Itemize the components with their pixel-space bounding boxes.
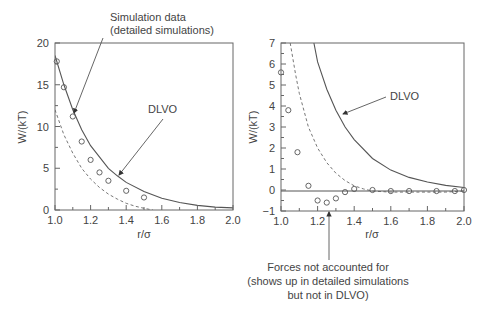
figure-canvas: 05101520 1.01.21.41.61.82.0 r/σ W/(kT) S… xyxy=(0,0,491,309)
simulation-data-point xyxy=(324,200,329,205)
simulation-data-point xyxy=(306,183,311,188)
x-tick-label: 1.2 xyxy=(310,215,325,227)
x-tick-label: 2.0 xyxy=(456,215,471,227)
y-tick-label: 3 xyxy=(269,121,275,133)
simulation-data-point xyxy=(286,108,291,113)
dashed-curve xyxy=(290,43,464,192)
left-plot-frame xyxy=(55,43,233,210)
x-tick-label: 1.4 xyxy=(347,215,362,227)
left-dlvo-arrow-icon xyxy=(119,119,163,175)
x-tick-label: 1.6 xyxy=(383,215,398,227)
left-chart: 05101520 1.01.21.41.61.82.0 r/σ W/(kT) S… xyxy=(16,11,241,240)
simulation-data-point xyxy=(124,188,129,193)
y-tick-label: 20 xyxy=(37,37,49,49)
simulation-data-sublabel: (detailed simulations) xyxy=(110,24,214,36)
y-tick-label: 5 xyxy=(43,162,49,174)
x-tick-label: 1.0 xyxy=(47,214,62,226)
simulation-data-label: Simulation data xyxy=(110,11,187,23)
y-tick-label: 4 xyxy=(269,100,275,112)
forces-sublabel-2: but not in DLVO) xyxy=(287,289,368,301)
left-x-axis-label: r/σ xyxy=(137,228,151,240)
simulation-data-point xyxy=(342,190,347,195)
right-dlvo-label: DLVO xyxy=(390,90,420,102)
right-dlvo-arrow-icon xyxy=(343,97,386,114)
left-y-axis-label: W/(kT) xyxy=(16,111,28,144)
right-y-axis-label: W/(kT) xyxy=(247,111,259,144)
left-dlvo-label: DLVO xyxy=(148,103,178,115)
y-tick-label: 15 xyxy=(37,79,49,91)
y-tick-label: 7 xyxy=(269,37,275,49)
right-y-tick-labels: −101234567 xyxy=(262,37,275,217)
simulation-data-point xyxy=(295,150,300,155)
left-x-tick-labels: 1.01.21.41.61.82.0 xyxy=(47,214,240,226)
forces-sublabel-1: (shows up in detailed simulations xyxy=(247,275,409,287)
right-x-axis-label: r/σ xyxy=(365,228,379,240)
dlvo-curve xyxy=(55,56,233,208)
y-tick-label: 6 xyxy=(269,58,275,70)
right-plot-area xyxy=(278,43,466,205)
x-tick-label: 1.4 xyxy=(119,214,134,226)
right-x-tick-labels: 1.01.21.41.61.82.0 xyxy=(273,215,471,227)
right-chart: −101234567 1.01.21.41.61.82.0 r/σ W/(kT)… xyxy=(247,37,472,301)
left-y-tick-labels: 05101520 xyxy=(37,37,49,216)
x-tick-label: 1.2 xyxy=(83,214,98,226)
simulation-data-point xyxy=(315,198,320,203)
y-tick-label: 2 xyxy=(269,142,275,154)
y-tick-label: 5 xyxy=(269,79,275,91)
y-tick-label: 1 xyxy=(269,163,275,175)
x-tick-label: 1.6 xyxy=(154,214,169,226)
simulation-data-point xyxy=(370,187,375,192)
x-tick-label: 1.0 xyxy=(273,215,288,227)
dlvo-curve xyxy=(314,43,464,188)
simulation-data-point xyxy=(79,139,84,144)
simulation-arrow-icon xyxy=(74,38,103,113)
left-axis-ticks xyxy=(55,43,233,210)
simulation-data-point xyxy=(333,196,338,201)
simulation-data-point xyxy=(141,195,146,200)
dashed-curve xyxy=(55,110,153,210)
x-tick-label: 1.8 xyxy=(420,215,435,227)
forces-label: Forces not accounted for xyxy=(267,261,389,273)
y-tick-label: 10 xyxy=(37,121,49,133)
y-tick-label: 0 xyxy=(269,184,275,196)
x-tick-label: 1.8 xyxy=(190,214,205,226)
simulation-data-point xyxy=(97,170,102,175)
left-plot-area xyxy=(54,56,233,211)
x-tick-label: 2.0 xyxy=(225,214,240,226)
simulation-data-point xyxy=(106,178,111,183)
simulation-data-point xyxy=(88,157,93,162)
